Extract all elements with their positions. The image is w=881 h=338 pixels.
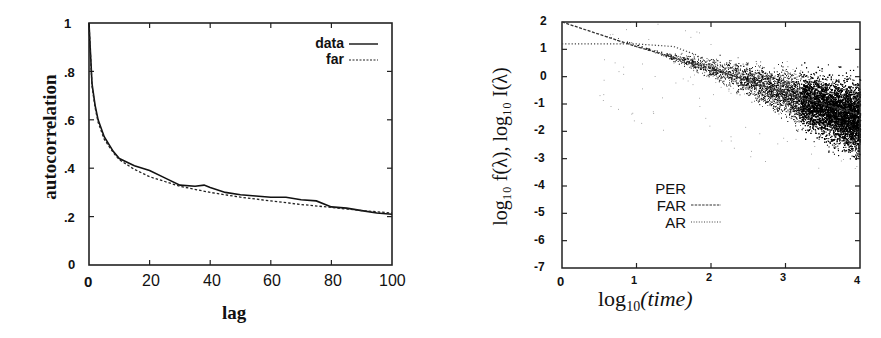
x-tick-label: 2 <box>706 271 712 283</box>
y-tick-label: -4 <box>534 178 545 192</box>
y-tick-label: -1 <box>534 96 545 110</box>
y-tick-label: 1 <box>540 41 547 55</box>
x-tick-label: 40 <box>203 272 221 290</box>
legend-label-ar: AR <box>638 214 686 231</box>
y-tick-label: 0 <box>540 69 547 83</box>
spectral-density-chart: log₁₀ f(λ), log₁₀ I(λ) log10(time) 210-1… <box>440 0 881 338</box>
x-axis-label-log: log <box>598 286 626 311</box>
x-axis-label-base: 10 <box>626 299 640 314</box>
y-tick-label: .2 <box>64 210 75 225</box>
plot-frame <box>562 22 860 268</box>
x-tick-label: 3 <box>780 271 786 283</box>
axis-ticks <box>89 23 392 265</box>
legend-label-far: FAR <box>638 197 686 214</box>
plot-frame <box>89 23 392 265</box>
axis-ticks <box>562 22 860 268</box>
autocorrelation-chart: autocorrelation lag 1 .8 .6 .4 .2 0 0 20… <box>0 0 440 338</box>
x-axis-label: lag <box>222 302 246 324</box>
x-axis-label-var: (time) <box>640 286 693 311</box>
legend-label-data: data <box>298 35 344 51</box>
y-tick-label: -2 <box>534 123 545 137</box>
y-tick-label: .6 <box>64 113 75 128</box>
x-tick-label: 20 <box>142 272 160 290</box>
legend-label-per: PER <box>638 180 686 197</box>
y-tick-label: .4 <box>64 161 75 176</box>
x-tick-label: 0 <box>557 274 564 289</box>
y-tick-label: 2 <box>540 14 547 28</box>
y-axis-label: log₁₀ f(λ), log₁₀ I(λ) <box>489 37 512 257</box>
y-tick-label: -5 <box>534 205 545 219</box>
x-axis-label: log10(time) <box>598 286 693 315</box>
y-tick-label: 1 <box>64 16 71 31</box>
y-tick-label: -3 <box>534 151 545 165</box>
y-tick-label: -6 <box>534 233 545 247</box>
y-axis-label: autocorrelation <box>39 47 61 227</box>
y-tick-label: .8 <box>64 65 75 80</box>
x-tick-label: 80 <box>324 272 342 290</box>
x-tick-label: 0 <box>84 273 92 290</box>
x-tick-label: 60 <box>263 272 281 290</box>
far-series-line <box>89 23 392 213</box>
y-tick-label: -7 <box>534 260 545 274</box>
y-tick-label: 0 <box>68 257 75 272</box>
x-tick-label: 1 <box>631 274 637 286</box>
x-tick-label: 4 <box>854 274 860 286</box>
data-series-line <box>89 23 392 214</box>
x-tick-label: 100 <box>379 272 406 290</box>
legend-label-far: far <box>298 51 344 67</box>
